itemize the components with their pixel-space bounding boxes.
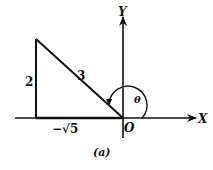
origin-label: O [124, 121, 135, 135]
vertical-side-label: 2 [25, 75, 33, 89]
angle-arc [109, 86, 147, 118]
figure-caption: (a) [93, 146, 111, 159]
angle-label: θ [134, 94, 141, 105]
figure: Y X O 2 3 −√5 θ (a) [0, 0, 213, 170]
x-axis-label: X [197, 112, 208, 126]
hypotenuse-label: 3 [77, 69, 85, 83]
horizontal-side-label: −√5 [52, 122, 78, 136]
y-axis-label: Y [118, 5, 128, 19]
